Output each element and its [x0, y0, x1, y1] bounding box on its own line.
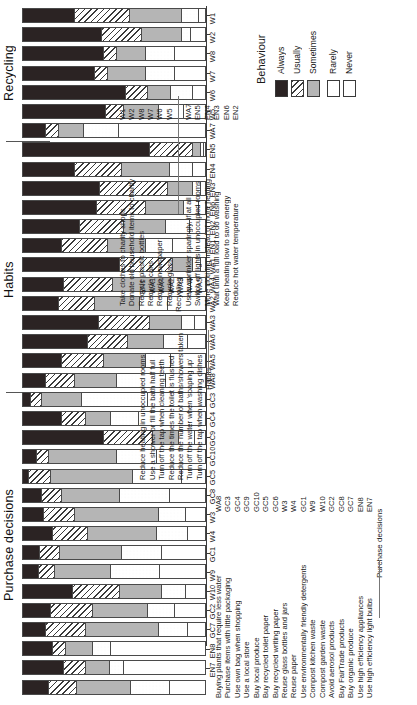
- bar-segment-always: [23, 28, 101, 41]
- bar-segment-always: [23, 182, 99, 195]
- bar-segment-rarely: [109, 661, 124, 674]
- stacked-bar: [22, 622, 206, 637]
- bar-segment-always: [23, 220, 79, 233]
- bar-segment-usually: [74, 163, 121, 176]
- bar-segment-usually: [43, 508, 74, 521]
- bar-row: [22, 639, 206, 658]
- stacked-bar: [22, 603, 206, 618]
- bar-segment-sometimes: [92, 604, 147, 617]
- bar-segment-usually: [94, 67, 107, 80]
- bar-segment-usually: [39, 546, 59, 559]
- bar-segment-always: [23, 565, 38, 578]
- bar-segment-rarely: [181, 28, 190, 41]
- bar-segment-never: [123, 661, 205, 674]
- bar-segment-never: [190, 28, 205, 41]
- bar-segment-never: [159, 565, 205, 578]
- bar-segment-always: [23, 278, 63, 291]
- bar-row: [22, 582, 206, 601]
- key-code: EN4: [203, 96, 212, 120]
- bar-segment-usually: [41, 489, 61, 502]
- key-code: EN7: [365, 488, 374, 512]
- bar-segment-sometimes: [74, 374, 116, 387]
- bar-segment-sometimes: [129, 9, 182, 22]
- bar-segment-always: [23, 47, 103, 60]
- bar-segment-usually: [58, 297, 94, 310]
- key-code: EN8: [356, 488, 365, 512]
- bar-row: [22, 543, 206, 562]
- key-code: WA4: [157, 270, 166, 294]
- bar-segment-always: [23, 681, 48, 694]
- stacked-bar: [22, 545, 206, 560]
- key-heading-rule: [379, 560, 380, 618]
- bar-segment-sometimes: [61, 489, 119, 502]
- bar-segment-rarely: [181, 9, 197, 22]
- key-code: GC1: [299, 488, 308, 512]
- key-code: W1: [118, 96, 127, 120]
- key-code: W10: [318, 488, 327, 512]
- key-code: GC5: [261, 488, 270, 512]
- bar-segment-sometimes: [59, 546, 121, 559]
- bar-segment-usually: [52, 527, 87, 540]
- bar-segment-always: [23, 297, 58, 310]
- bar-segment-never: [174, 604, 205, 617]
- bar-segment-sometimes: [87, 527, 156, 540]
- stacked-bar: [22, 641, 206, 656]
- key-text: Buy local produce: [252, 518, 261, 698]
- key-code: W7: [146, 96, 155, 120]
- stacked-bar: [22, 66, 206, 81]
- key-text: Turn off the tap when washing dishes: [195, 300, 204, 480]
- key-code: GC8: [337, 488, 346, 512]
- key-code: WA1: [148, 270, 157, 294]
- key-code: W8: [137, 96, 146, 120]
- legend-swatch-never: [343, 80, 356, 97]
- bar-segment-rarely: [158, 623, 187, 636]
- bar-segment-sometimes: [116, 47, 145, 60]
- bar-segment-always: [23, 527, 52, 540]
- bar-segment-never: [187, 527, 205, 540]
- bar-segment-always: [23, 393, 30, 406]
- bar-row: [22, 25, 206, 44]
- key-code: GC4: [233, 488, 242, 512]
- bar-segment-usually: [103, 47, 116, 60]
- bar-segment-always: [23, 585, 72, 598]
- key-text: Compost kitchen waste: [308, 518, 317, 698]
- bar-segment-usually: [79, 220, 123, 233]
- bar-segment-never: [110, 642, 205, 655]
- bar-row: [22, 64, 206, 83]
- key-code: GC3: [223, 488, 232, 512]
- key-code: GC6: [271, 488, 280, 512]
- bar-segment-rarely: [156, 527, 187, 540]
- bar-row: [22, 486, 206, 505]
- key-code: WA6: [185, 270, 194, 294]
- bar-segment-usually: [36, 450, 49, 463]
- bar-segment-sometimes: [74, 508, 158, 521]
- key-text: Turn off the tap when cleaning teeth: [157, 300, 166, 480]
- bar-row: [22, 601, 206, 620]
- bar-segment-never: [161, 546, 205, 559]
- bar-segment-usually: [45, 124, 58, 137]
- key-text: Reduce the times the toilet is flushed: [167, 300, 176, 480]
- bar-segment-always: [23, 489, 41, 502]
- key-code: WA8: [214, 488, 223, 512]
- bar-segment-never: [187, 623, 205, 636]
- bar-row: [22, 6, 206, 25]
- legend-label-sometimes: Sometimes: [308, 14, 318, 74]
- key-text: Reuse glass bottles and jars: [280, 518, 289, 698]
- key-code: WA2: [167, 270, 176, 294]
- bar-segment-usually: [45, 374, 74, 387]
- legend-and-key-panel: Behaviour AlwaysUsuallySometimesRarelyNe…: [215, 0, 417, 705]
- bar-segment-rarely: [83, 124, 118, 137]
- key-code: W9: [308, 488, 317, 512]
- key-text: Donate old household items to charity: [127, 126, 136, 306]
- key-code: W3: [280, 488, 289, 512]
- bar-segment-never: [185, 508, 205, 521]
- bar-segment-sometimes: [48, 450, 115, 463]
- bar-segment-never: [174, 47, 205, 60]
- bar-segment-sometimes: [85, 661, 109, 674]
- key-text: Take clothes to charity shops: [118, 126, 127, 306]
- bar-segment-usually: [87, 335, 127, 348]
- bar-segment-always: [23, 239, 61, 252]
- bar-segment-always: [23, 623, 45, 636]
- key-text: Use a local store: [242, 518, 251, 698]
- bar-segment-rarely: [145, 67, 174, 80]
